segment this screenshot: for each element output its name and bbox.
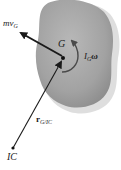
linear-momentum-label-main: mv: [3, 18, 14, 28]
diagram-svg: [0, 0, 121, 170]
angular-momentum-label-tail: ω: [91, 51, 98, 61]
position-vector-label: rG/IC: [36, 115, 52, 125]
angular-momentum-label: IGω: [84, 52, 98, 62]
instantaneous-center-label: IC: [7, 152, 17, 162]
center-of-mass-label: G: [58, 39, 65, 49]
instantaneous-center-point: [11, 146, 14, 149]
center-of-mass-point: [61, 56, 65, 60]
linear-momentum-label-sub: G: [14, 23, 18, 29]
position-vector-line: [13, 62, 61, 148]
linear-momentum-label: mvG: [3, 19, 18, 29]
rigid-body-shape: [36, 0, 113, 107]
diagram-canvas: mvG G IGω rG/IC IC: [0, 0, 121, 170]
position-vector-label-sub: G/IC: [40, 119, 52, 125]
